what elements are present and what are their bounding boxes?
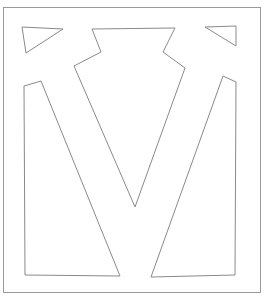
outer-frame (4, 8, 261, 293)
center-v-shape (74, 28, 185, 207)
left-quadrilateral (24, 81, 120, 276)
figure-canvas (0, 0, 268, 301)
right-quadrilateral (151, 76, 236, 277)
top-left-triangle (22, 27, 63, 53)
top-right-triangle (205, 26, 236, 46)
line-drawing (0, 0, 268, 301)
